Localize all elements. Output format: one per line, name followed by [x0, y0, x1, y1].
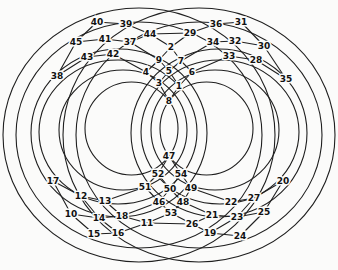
graph-figure: 1234567891011121314151617181920212223242… [0, 0, 338, 270]
node-label-22: 22 [225, 197, 238, 207]
node-label-54: 54 [175, 169, 188, 179]
node-label-27: 27 [248, 193, 261, 203]
node-label-45: 45 [70, 37, 83, 47]
node-label-21: 21 [206, 210, 219, 220]
node-label-32: 32 [229, 36, 242, 46]
node-label-23: 23 [231, 212, 244, 222]
node-label-26: 26 [186, 219, 199, 229]
node-label-3: 3 [156, 78, 162, 88]
node-label-41: 41 [99, 34, 112, 44]
node-label-16: 16 [112, 228, 125, 238]
node-label-13: 13 [99, 196, 112, 206]
node-label-35: 35 [280, 74, 293, 84]
node-label-53: 53 [165, 208, 178, 218]
node-label-43: 43 [81, 52, 94, 62]
node-label-12: 12 [75, 191, 88, 201]
node-label-29: 29 [184, 28, 197, 38]
node-label-17: 17 [47, 176, 60, 186]
figure-background [0, 0, 338, 270]
node-label-7: 7 [178, 56, 184, 66]
node-label-28: 28 [250, 55, 263, 65]
node-label-33: 33 [223, 51, 236, 61]
node-label-47: 47 [163, 151, 176, 161]
node-label-50: 50 [164, 184, 177, 194]
node-label-6: 6 [189, 67, 195, 77]
node-label-30: 30 [258, 41, 271, 51]
node-label-49: 49 [185, 183, 198, 193]
node-label-39: 39 [120, 19, 133, 29]
node-label-9: 9 [156, 55, 162, 65]
node-label-15: 15 [88, 229, 101, 239]
node-label-1: 1 [176, 81, 182, 91]
node-label-36: 36 [210, 19, 223, 29]
node-label-8: 8 [166, 96, 172, 106]
node-label-40: 40 [91, 17, 104, 27]
node-label-24: 24 [234, 231, 247, 241]
node-label-34: 34 [207, 37, 220, 47]
node-label-25: 25 [258, 207, 271, 217]
node-label-2: 2 [168, 42, 174, 52]
node-label-14: 14 [93, 213, 106, 223]
node-label-46: 46 [153, 197, 166, 207]
node-label-4: 4 [143, 67, 149, 77]
node-label-10: 10 [65, 209, 78, 219]
node-label-18: 18 [116, 211, 129, 221]
node-label-48: 48 [177, 197, 190, 207]
node-label-11: 11 [141, 218, 154, 228]
node-label-19: 19 [204, 228, 217, 238]
node-label-38: 38 [51, 71, 64, 81]
node-label-37: 37 [124, 37, 137, 47]
node-label-42: 42 [107, 49, 120, 59]
node-label-31: 31 [235, 17, 248, 27]
node-label-20: 20 [277, 176, 290, 186]
node-label-51: 51 [139, 182, 152, 192]
node-label-52: 52 [152, 169, 165, 179]
node-label-44: 44 [144, 29, 157, 39]
graph-canvas: 1234567891011121314151617181920212223242… [0, 0, 338, 270]
node-label-5: 5 [166, 66, 172, 76]
